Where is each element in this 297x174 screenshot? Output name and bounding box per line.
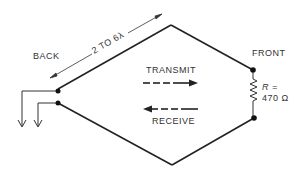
resistor-r-label: R = [262,82,278,92]
front-label: FRONT [252,48,286,58]
arrow-right-icon [189,80,198,87]
back-label: BACK [33,51,60,61]
receive-label: RECEIVE [152,116,195,126]
terminals [56,67,257,121]
resistor-icon [250,72,257,116]
feed-lines [18,91,58,127]
rhombic-antenna-diagram: 2 TO 6λ BACK FRONT TRANSMIT RECEIVE R = … [0,0,297,174]
transmit-label: TRANSMIT [146,65,196,75]
arrowhead-icon [155,14,162,19]
upper-right-wire [171,25,253,70]
front-terminal-bottom [251,115,257,121]
transmit-arrow [143,80,198,87]
receive-arrow [143,106,198,113]
lower-left-wire [58,103,172,165]
arrowhead-icon [50,73,57,78]
front-terminal-top [250,67,256,73]
resistor-value-label: 470 Ω [262,93,289,103]
back-terminal-top [56,89,61,94]
back-terminal-bottom [56,101,61,106]
feed-line-1 [22,91,58,126]
length-label: 2 TO 6λ [90,29,125,55]
rhombus-wires [58,25,254,165]
